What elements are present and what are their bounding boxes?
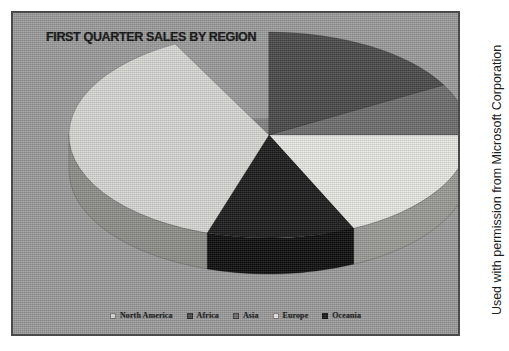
legend-swatch-icon — [233, 313, 239, 319]
legend-swatch-icon — [187, 313, 193, 319]
pie-top-faces — [69, 32, 460, 238]
credit-caption-text: Used with permission from Microsoft Corp… — [490, 45, 504, 315]
pie-chart-svg — [13, 13, 460, 336]
legend-swatch-icon — [273, 313, 279, 319]
chart-title: FIRST QUARTER SALES BY REGION — [46, 29, 256, 44]
pie-chart — [13, 13, 458, 334]
legend-swatch-icon — [110, 313, 116, 319]
legend-item-label: Asia — [243, 311, 259, 320]
legend-item[interactable]: Asia — [233, 311, 259, 320]
legend-item-label: Europe — [283, 311, 309, 320]
legend-swatch-icon — [322, 313, 328, 319]
legend-item-label: North America — [120, 311, 173, 320]
chart-legend: North AmericaAfricaAsiaEuropeOceania — [13, 311, 458, 320]
legend-item[interactable]: Oceania — [322, 311, 361, 320]
credit-caption: Used with permission from Microsoft Corp… — [487, 15, 507, 345]
legend-item-label: Africa — [197, 311, 219, 320]
legend-item[interactable]: North America — [110, 311, 173, 320]
chart-panel: FIRST QUARTER SALES BY REGION North Amer… — [11, 11, 460, 336]
legend-item[interactable]: Africa — [187, 311, 219, 320]
legend-item[interactable]: Europe — [273, 311, 309, 320]
legend-item-label: Oceania — [332, 311, 361, 320]
